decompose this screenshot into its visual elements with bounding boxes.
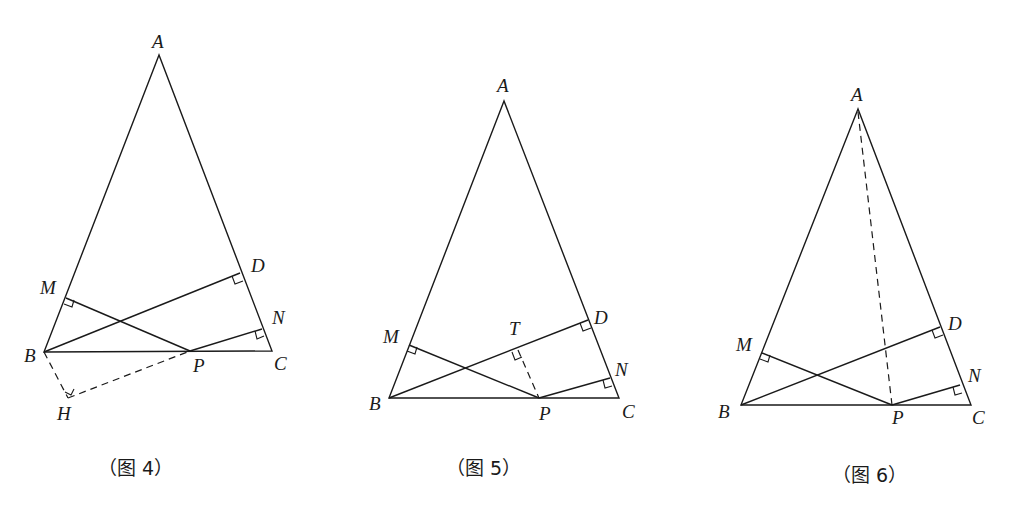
label-p: P [891, 407, 904, 428]
label-d: D [250, 255, 265, 276]
label-a: A [849, 84, 863, 105]
label-n: N [614, 359, 629, 380]
figure-5: A B C P D M T N （图 5） [369, 75, 635, 479]
right-angle-mark-h [65, 389, 74, 395]
label-c: C [972, 407, 985, 428]
segment-pn [539, 378, 610, 398]
geometry-figures: A B C P D M N H （图 4） A B C P D M T N （图… [0, 0, 1010, 530]
label-m: M [382, 326, 400, 347]
label-b: B [24, 345, 36, 366]
label-b: B [369, 393, 381, 414]
segment-pm [762, 353, 892, 405]
segment-pn [190, 329, 262, 351]
label-c: C [622, 401, 635, 422]
label-d: D [593, 307, 608, 328]
figure-6: A B C P D M N （图 6） [718, 84, 985, 486]
label-m: M [39, 277, 57, 298]
right-angle-mark-n [953, 387, 962, 395]
label-p: P [538, 403, 551, 424]
figure-caption-5: （图 5） [446, 457, 521, 479]
right-angle-mark-n [255, 331, 264, 339]
right-angle-mark-d [232, 276, 243, 284]
segment-bd [741, 327, 940, 405]
label-d: D [947, 313, 962, 334]
figure-caption-4: （图 4） [98, 457, 173, 479]
label-n: N [271, 307, 286, 328]
label-m: M [735, 334, 753, 355]
label-b: B [718, 401, 730, 422]
segment-ap-dashed [858, 112, 892, 405]
segment-bh-dashed [44, 352, 68, 398]
label-c: C [274, 353, 287, 374]
label-h: H [56, 403, 72, 424]
label-a: A [150, 31, 164, 52]
right-angle-mark-d [932, 330, 943, 338]
label-t: T [509, 318, 521, 339]
segment-pn [892, 385, 960, 405]
right-angle-mark-n [603, 380, 612, 388]
segment-hp-dashed [68, 351, 190, 398]
figure-4: A B C P D M N H （图 4） [24, 31, 287, 479]
figure-caption-6: （图 6） [832, 464, 907, 486]
label-n: N [967, 365, 982, 386]
triangle-abc [44, 55, 272, 352]
right-angle-mark-d [580, 323, 591, 331]
segment-bd [44, 273, 240, 352]
segment-bd [389, 320, 588, 398]
label-p: P [192, 355, 205, 376]
label-a: A [495, 75, 509, 96]
segment-pm [66, 298, 190, 351]
